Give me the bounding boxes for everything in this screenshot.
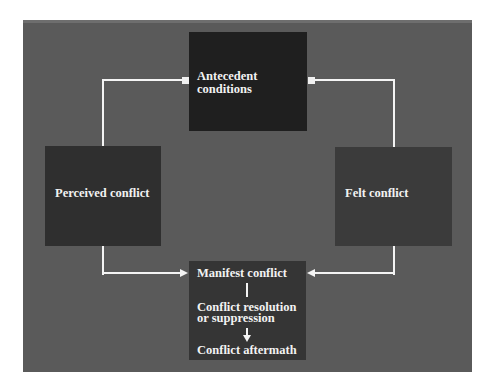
- connector-bottom-left-horizontal: [102, 272, 182, 274]
- connector-bottom-right-horizontal: [314, 272, 395, 274]
- perceived-conflict-label: Perceived conflict: [55, 187, 161, 200]
- felt-conflict-box: Felt conflict: [335, 147, 452, 246]
- connector-square-right: [308, 77, 315, 84]
- conflict-aftermath-label: Conflict aftermath: [197, 344, 297, 357]
- connector-top-left-horizontal: [103, 79, 184, 81]
- arrow-down-icon: [243, 335, 251, 342]
- resolution-label-line2: or suppression: [197, 312, 275, 325]
- antecedent-label-line2: conditions: [197, 83, 307, 96]
- perceived-conflict-box: Perceived conflict: [45, 146, 161, 246]
- felt-conflict-label: Felt conflict: [345, 187, 452, 200]
- connector-square-left: [182, 77, 189, 84]
- antecedent-conditions-box: Antecedent conditions: [189, 32, 307, 131]
- connector-manifest-to-resolution: [246, 283, 248, 297]
- manifest-conflict-label: Manifest conflict: [197, 267, 287, 280]
- connector-top-right-horizontal: [313, 79, 395, 81]
- arrow-left-icon: [307, 269, 315, 277]
- arrow-right-icon: [180, 269, 188, 277]
- manifest-conflict-box: Manifest conflict Conflict resolution or…: [189, 261, 306, 360]
